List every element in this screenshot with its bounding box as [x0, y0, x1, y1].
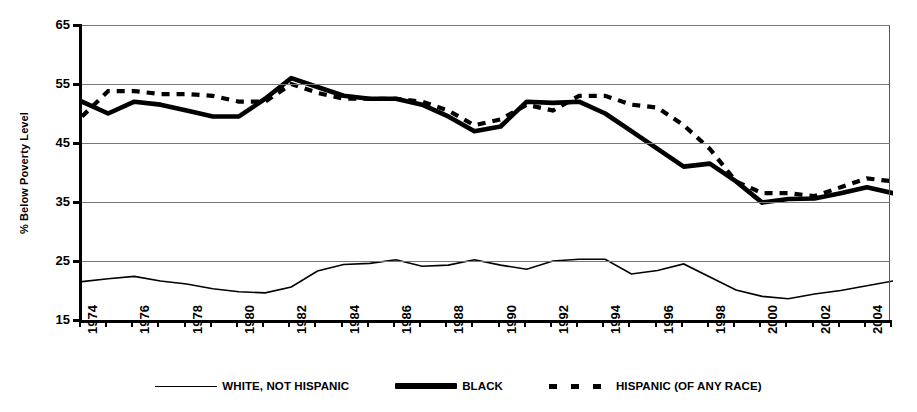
x-tick-1982 [288, 320, 290, 327]
x-tick-1980 [236, 320, 238, 327]
poverty-rate-line-chart: % Below Poverty Level 655545352515 19741… [0, 0, 917, 412]
series-line-hispanic [82, 84, 893, 196]
x-tick-1990 [498, 320, 500, 327]
x-tick-1975 [105, 320, 107, 327]
x-tick-label-1976: 1976 [137, 305, 152, 334]
x-tick-1974 [79, 320, 81, 327]
y-axis-tick-labels: 655545352515 [26, 0, 70, 340]
y-tick-mark-45 [73, 142, 82, 145]
x-tick-label-2004: 2004 [870, 305, 885, 334]
gridline-55 [82, 84, 890, 85]
x-tick-2003 [838, 320, 840, 327]
y-tick-label-25: 25 [36, 254, 70, 267]
x-tick-label-1992: 1992 [556, 305, 571, 334]
x-tick-1987 [419, 320, 421, 327]
x-tick-1997 [681, 320, 683, 327]
x-tick-label-1974: 1974 [85, 305, 100, 334]
x-tick-2001 [785, 320, 787, 327]
gridline-65 [82, 25, 890, 26]
y-tick-label-45: 45 [36, 136, 70, 149]
gridline-45 [82, 143, 890, 144]
y-tick-mark-55 [73, 83, 82, 86]
y-tick-label-35: 35 [36, 195, 70, 208]
x-tick-2002 [812, 320, 814, 327]
x-tick-1989 [471, 320, 473, 327]
y-tick-label-15: 15 [36, 313, 70, 326]
legend-item-1: WHITE, NOT HISPANIC [155, 380, 349, 392]
x-tick-1998 [707, 320, 709, 327]
plot-frame-right [889, 25, 890, 320]
x-tick-1992 [550, 320, 552, 327]
plot-area [79, 25, 890, 320]
y-tick-mark-65 [73, 24, 82, 27]
x-tick-1984 [341, 320, 343, 327]
x-tick-1979 [210, 320, 212, 327]
x-tick-label-1996: 1996 [661, 305, 676, 334]
series-lines [82, 25, 893, 320]
x-tick-label-1994: 1994 [608, 305, 623, 334]
x-tick-1977 [157, 320, 159, 327]
x-tick-label-1980: 1980 [242, 305, 257, 334]
gridline-25 [82, 261, 890, 262]
x-tick-2004 [864, 320, 866, 327]
x-tick-label-1998: 1998 [713, 305, 728, 334]
x-tick-1976 [131, 320, 133, 327]
x-tick-1994 [602, 320, 604, 327]
legend-label: BLACK [462, 380, 503, 392]
y-tick-label-55: 55 [36, 77, 70, 90]
x-tick-1978 [184, 320, 186, 327]
x-tick-1993 [576, 320, 578, 327]
x-tick-label-1986: 1986 [399, 305, 414, 334]
legend-item-3: HISPANIC (OF ANY RACE) [549, 380, 762, 392]
x-tick-1995 [628, 320, 630, 327]
x-tick-1986 [393, 320, 395, 327]
x-tick-2000 [759, 320, 761, 327]
legend-item-2: BLACK [395, 380, 503, 392]
chart-legend: WHITE, NOT HISPANICBLACKHISPANIC (OF ANY… [0, 374, 917, 398]
x-tick-1991 [524, 320, 526, 327]
gridline-35 [82, 202, 890, 203]
legend-label: WHITE, NOT HISPANIC [222, 380, 349, 392]
legend-swatch-solid-thin-icon [155, 386, 217, 387]
x-tick-1981 [262, 320, 264, 327]
x-tick-1985 [367, 320, 369, 327]
x-tick-label-1990: 1990 [504, 305, 519, 334]
series-line-black [82, 78, 893, 202]
y-tick-label-65: 65 [36, 18, 70, 31]
legend-swatch-dashed-icon [549, 384, 611, 389]
x-tick-label-1982: 1982 [294, 305, 309, 334]
x-tick-2005 [890, 320, 892, 327]
x-tick-label-1984: 1984 [347, 305, 362, 334]
x-tick-label-1988: 1988 [451, 305, 466, 334]
x-tick-1996 [655, 320, 657, 327]
y-tick-mark-25 [73, 260, 82, 263]
legend-label: HISPANIC (OF ANY RACE) [616, 380, 762, 392]
x-tick-1988 [445, 320, 447, 327]
x-tick-label-1978: 1978 [190, 305, 205, 334]
series-line-white [82, 259, 893, 299]
legend-swatch-solid-thick-icon [395, 383, 457, 389]
y-tick-mark-35 [73, 201, 82, 204]
x-tick-label-2002: 2002 [818, 305, 833, 334]
x-tick-1983 [314, 320, 316, 327]
x-tick-label-2000: 2000 [765, 305, 780, 334]
x-tick-1999 [733, 320, 735, 327]
